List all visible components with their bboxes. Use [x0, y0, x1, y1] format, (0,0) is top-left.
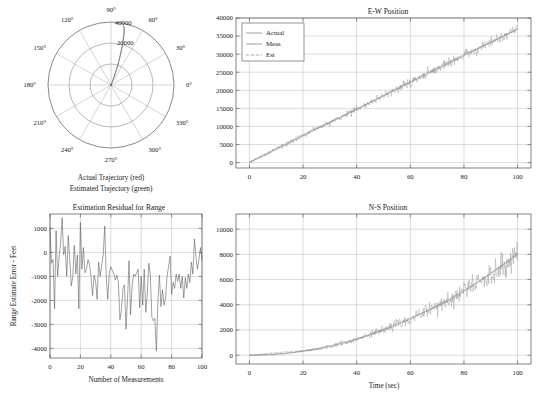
- polar-angle-label-300deg: 300°: [149, 146, 162, 153]
- polar-caption-actual: Actual Trajectory (red): [78, 174, 145, 182]
- ns-series-meas: [249, 242, 517, 355]
- xtick-20: 20: [300, 369, 307, 376]
- polar-radial-label-40000: 40000: [115, 19, 132, 26]
- xtick-0: 0: [48, 363, 52, 370]
- ytick--3000: -3000: [31, 321, 47, 328]
- ytick-1000: 1000: [33, 225, 47, 232]
- ytick--4000: -4000: [31, 345, 47, 352]
- ytick-5000: 5000: [219, 141, 233, 148]
- polar-angle-label-270deg: 270°: [105, 156, 118, 163]
- ytick-8000: 8000: [219, 251, 233, 258]
- polar-actual-trajectory: [111, 26, 124, 85]
- polar-angle-label-180deg: 180°: [23, 81, 36, 88]
- residual-title: Estimation Residual for Range: [73, 203, 166, 212]
- xtick-20: 20: [300, 173, 307, 180]
- estimation-residual-chart: Estimation Residual for Range 0204060801…: [4, 198, 214, 402]
- residual-series-group: [50, 218, 202, 351]
- xtick-40: 40: [107, 363, 114, 370]
- ytick-25000: 25000: [216, 69, 234, 76]
- polar-trajectory-chart: 2000040000 0°30°60°90°120°150°180°210°24…: [8, 2, 213, 197]
- ns-xlabel: Time (sec): [369, 382, 400, 390]
- ytick-4000: 4000: [219, 301, 233, 308]
- ns-position-title: N-S Position: [369, 203, 408, 212]
- ytick-10000: 10000: [216, 123, 234, 130]
- polar-angle-label-0deg: 0°: [186, 81, 192, 88]
- residual-gridlines: [50, 214, 202, 358]
- residual-ylabel: Range Estimate Error - Feet: [10, 246, 18, 327]
- ytick-40000: 40000: [216, 14, 234, 21]
- polar-caption-estimated: Estimated Trajectory (green): [70, 185, 153, 193]
- residual-series-line: [50, 218, 202, 351]
- ns-position-chart: N-S Position 020406080100020004000600080…: [196, 198, 541, 402]
- xtick-60: 60: [407, 173, 414, 180]
- polar-trajectory-panel: 2000040000 0°30°60°90°120°150°180°210°24…: [8, 2, 213, 197]
- polar-angle-label-330deg: 330°: [176, 119, 189, 126]
- polar-radial-label-20000: 20000: [117, 39, 134, 46]
- xtick-100: 100: [512, 173, 523, 180]
- ew-legend-label-est: Est: [266, 51, 275, 58]
- residual-xlabel: Number of Measurements: [88, 376, 163, 384]
- xtick-0: 0: [248, 173, 252, 180]
- xtick-80: 80: [168, 363, 175, 370]
- ew-legend-label-actual: Actual: [266, 29, 284, 36]
- xtick-80: 80: [461, 173, 468, 180]
- residual-plot-box: [50, 214, 202, 358]
- xtick-60: 60: [407, 369, 414, 376]
- ytick-0: 0: [230, 352, 234, 359]
- ew-legend: ActualMeasEst: [242, 23, 304, 61]
- estimation-residual-panel: Estimation Residual for Range 0204060801…: [4, 198, 214, 402]
- ns-series-group: [249, 242, 517, 355]
- ytick-10000: 10000: [216, 226, 234, 233]
- polar-grid: 2000040000: [48, 19, 174, 148]
- ytick--2000: -2000: [31, 297, 47, 304]
- ns-position-panel: N-S Position 020406080100020004000600080…: [196, 198, 541, 402]
- ytick-0: 0: [44, 249, 48, 256]
- xtick-0: 0: [248, 369, 252, 376]
- ytick-20000: 20000: [216, 87, 234, 94]
- polar-angle-label-30deg: 30°: [176, 44, 186, 51]
- polar-angle-label-150deg: 150°: [34, 44, 47, 51]
- xtick-80: 80: [461, 369, 468, 376]
- polar-angle-label-120deg: 120°: [61, 16, 74, 23]
- ns-series-est: [249, 253, 517, 355]
- xtick-40: 40: [353, 173, 360, 180]
- polar-series-group: [111, 25, 124, 85]
- ew-legend-label-meas: Meas: [266, 40, 281, 47]
- xtick-100: 100: [512, 369, 523, 376]
- ns-plot-box: [236, 214, 531, 364]
- ew-position-title: E-W Position: [368, 7, 409, 16]
- polar-angle-label-240deg: 240°: [61, 146, 74, 153]
- ytick--1000: -1000: [31, 273, 47, 280]
- xtick-60: 60: [138, 363, 145, 370]
- ytick-35000: 35000: [216, 32, 234, 39]
- ytick-6000: 6000: [219, 276, 233, 283]
- ytick-0: 0: [230, 159, 234, 166]
- ytick-30000: 30000: [216, 51, 234, 58]
- xtick-40: 40: [353, 369, 360, 376]
- ns-gridlines: [236, 214, 531, 364]
- ew-position-panel: E-W Position 020406080100050001000015000…: [196, 2, 541, 194]
- polar-angle-label-60deg: 60°: [149, 16, 159, 23]
- ew-position-chart: E-W Position 020406080100050001000015000…: [196, 2, 541, 194]
- ytick-15000: 15000: [216, 105, 234, 112]
- polar-angle-label-90deg: 90°: [106, 6, 116, 13]
- figure-canvas: 2000040000 0°30°60°90°120°150°180°210°24…: [0, 0, 541, 402]
- ytick-2000: 2000: [219, 326, 233, 333]
- ns-tick-labels: 0204060801000200040006000800010000: [216, 226, 523, 376]
- polar-angle-label-210deg: 210°: [34, 119, 47, 126]
- polar-estimated-trajectory: [111, 25, 124, 84]
- xtick-20: 20: [77, 363, 84, 370]
